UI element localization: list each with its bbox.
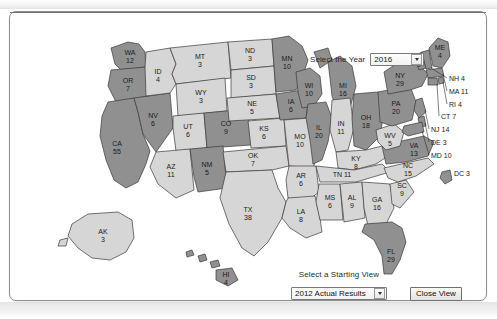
callout-label-RI: RI 4 xyxy=(449,101,462,108)
state-WY[interactable] xyxy=(176,78,227,116)
leader-line-RI xyxy=(443,82,447,104)
chevron-down-icon[interactable] xyxy=(374,288,385,299)
state-TX[interactable] xyxy=(220,170,286,256)
chevron-down-icon[interactable] xyxy=(411,54,422,65)
state-NE[interactable] xyxy=(227,94,280,121)
close-view-button-wrap[interactable]: Close View xyxy=(410,282,462,301)
callout-label-NJ: NJ 14 xyxy=(431,126,449,133)
state-GA[interactable] xyxy=(362,182,394,226)
screenshot-root: .dem { fill:#909090; stroke:#3a3a3a; str… xyxy=(0,0,497,319)
callout-label-NH: NH 4 xyxy=(449,75,465,82)
state-UT[interactable] xyxy=(173,113,207,151)
state-ND[interactable] xyxy=(228,39,274,70)
state-DC-marker[interactable] xyxy=(440,170,452,184)
state-MA[interactable] xyxy=(426,68,444,78)
state-SD[interactable] xyxy=(231,66,276,98)
state-MD[interactable] xyxy=(402,122,424,136)
close-view-button[interactable]: Close View xyxy=(410,287,462,301)
state-MT[interactable] xyxy=(170,42,231,84)
state-SC[interactable] xyxy=(390,180,414,208)
callout-label-DC: DC 3 xyxy=(454,170,470,177)
page-band-top xyxy=(0,0,497,9)
state-CT[interactable] xyxy=(428,78,438,85)
year-select[interactable]: 2016 xyxy=(370,53,424,66)
year-control[interactable]: Select the Year 2016 xyxy=(310,53,424,66)
page-band-bottom xyxy=(0,302,497,319)
starting-view-select-value: 2012 Actual Results xyxy=(295,288,366,299)
state-IN[interactable] xyxy=(330,98,354,152)
state-AL[interactable] xyxy=(340,182,365,222)
map-window-frame: .dem { fill:#909090; stroke:#3a3a3a; str… xyxy=(9,11,487,301)
state-ME[interactable] xyxy=(429,38,450,68)
state-AK[interactable] xyxy=(58,212,134,260)
callout-label-MD: MD 10 xyxy=(431,152,452,159)
callout-label-MA: MA 11 xyxy=(449,88,468,95)
state-NJ[interactable] xyxy=(414,98,426,118)
starting-view-label: Select a Starting View xyxy=(291,270,387,279)
state-WA[interactable] xyxy=(111,42,146,70)
starting-view-select[interactable]: 2012 Actual Results xyxy=(291,287,387,300)
state-ID[interactable] xyxy=(145,48,176,96)
state-MS[interactable] xyxy=(316,184,343,220)
state-HI[interactable] xyxy=(186,250,238,286)
state-FL[interactable] xyxy=(362,222,406,274)
year-select-value: 2016 xyxy=(374,54,392,65)
state-NM[interactable] xyxy=(190,146,227,192)
starting-view-control[interactable]: Select a Starting View 2012 Actual Resul… xyxy=(291,270,387,300)
leader-line-CT xyxy=(437,84,439,116)
callout-label-CT: CT 7 xyxy=(441,113,456,120)
state-KS[interactable] xyxy=(248,118,286,148)
state-OK[interactable] xyxy=(223,146,289,172)
year-label: Select the Year xyxy=(310,55,365,64)
state-AZ[interactable] xyxy=(150,149,194,198)
